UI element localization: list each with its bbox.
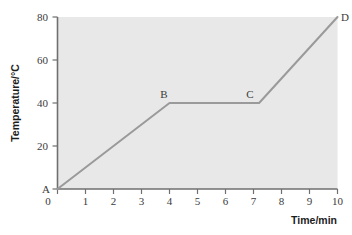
point-label-b: B (160, 88, 167, 100)
point-label-a: A (42, 183, 50, 195)
x-tick-label: 2 (111, 195, 117, 207)
x-tick-label: 4 (167, 195, 173, 207)
y-tick-label: 60 (37, 54, 49, 66)
y-axis-tick-labels: 80 60 40 20 0 (37, 11, 51, 207)
x-tick-label: 7 (251, 195, 257, 207)
y-tick-label: 80 (37, 11, 49, 23)
x-tick-label: 8 (279, 195, 285, 207)
y-tick-label: 40 (37, 97, 49, 109)
x-tick-label: 5 (195, 195, 201, 207)
x-tick-label: 6 (223, 195, 229, 207)
x-axis-tick-labels: 1 2 3 4 5 6 7 8 9 10 (83, 195, 344, 207)
x-axis-title: Time/min (291, 214, 337, 226)
temperature-time-line-chart: 80 60 40 20 0 1 2 3 4 5 6 7 8 9 10 A B C… (0, 0, 352, 235)
y-axis-title: Temperature/°C (9, 64, 21, 142)
y-tick-label: 20 (37, 140, 49, 152)
x-tick-label: 1 (83, 195, 89, 207)
x-tick-label: 10 (332, 195, 344, 207)
x-tick-label: 3 (139, 195, 145, 207)
x-tick-label: 9 (307, 195, 313, 207)
point-label-c: C (246, 88, 253, 100)
y-tick-label: 0 (45, 195, 51, 207)
point-label-d: D (341, 11, 349, 23)
chart-figure: 80 60 40 20 0 1 2 3 4 5 6 7 8 9 10 A B C… (0, 0, 352, 235)
